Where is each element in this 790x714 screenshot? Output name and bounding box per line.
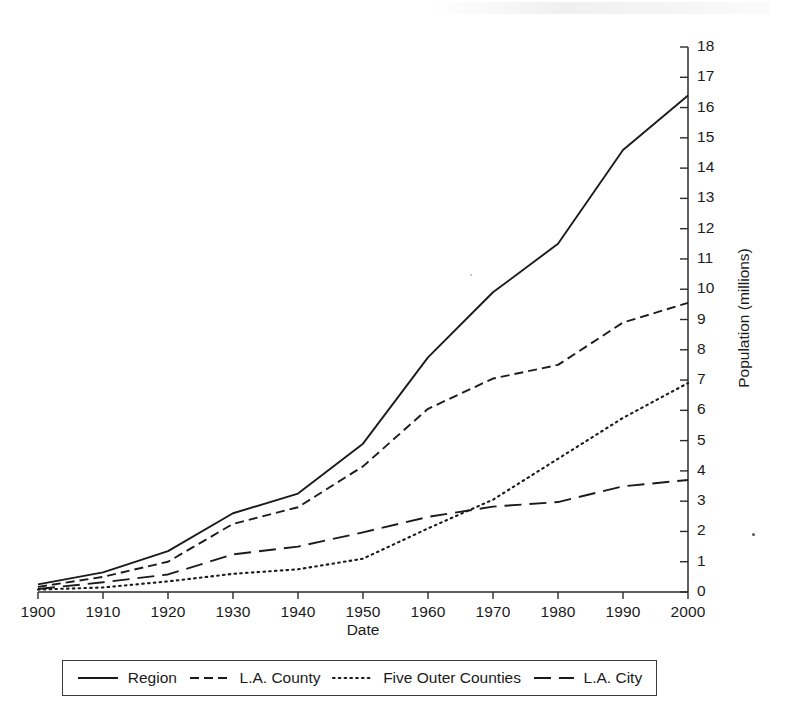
x-tick-label: 1990 xyxy=(606,603,641,621)
y-tick-label: 16 xyxy=(697,98,714,116)
legend-label: Region xyxy=(128,669,177,687)
y-axis-ticks xyxy=(680,47,688,592)
y-tick-label: 4 xyxy=(697,461,706,479)
x-tick-label: 1940 xyxy=(281,603,316,621)
legend-entry-region[interactable]: Region xyxy=(77,669,177,687)
legend-label: Five Outer Counties xyxy=(383,669,521,687)
population-growth-line-chart: 0123456789101112131415161718 19001910192… xyxy=(0,0,790,714)
x-axis-title: Date xyxy=(347,621,380,639)
y-tick-label: 1 xyxy=(697,552,706,570)
legend-entry-five-outer-counties[interactable]: Five Outer Counties xyxy=(332,669,521,687)
y-tick-label: 12 xyxy=(697,219,714,237)
legend-label: L.A. City xyxy=(584,669,643,687)
series-line-five-outer-counties xyxy=(38,383,688,590)
series-line-region xyxy=(38,95,688,584)
legend-swatch-dotted xyxy=(332,672,374,684)
x-tick-label: 1960 xyxy=(411,603,446,621)
y-tick-label: 5 xyxy=(697,431,706,449)
x-tick-label: 1930 xyxy=(216,603,251,621)
x-tick-label: 1970 xyxy=(476,603,511,621)
y-tick-label: 13 xyxy=(697,188,714,206)
y-tick-label: 7 xyxy=(697,370,706,388)
y-tick-label: 8 xyxy=(697,340,706,358)
y-tick-label: 14 xyxy=(697,158,714,176)
y-tick-label: 11 xyxy=(697,249,713,267)
y-tick-label: 3 xyxy=(697,491,706,509)
x-tick-label: 1950 xyxy=(346,603,381,621)
y-tick-label: 2 xyxy=(697,521,706,539)
x-tick-label: 2000 xyxy=(671,603,706,621)
legend-swatch-long-dash xyxy=(533,672,575,684)
y-tick-label: 15 xyxy=(697,128,714,146)
y-axis-title: Population (millions) xyxy=(735,248,753,388)
legend-entry-l-a-county[interactable]: L.A. County xyxy=(189,669,321,687)
x-tick-label: 1920 xyxy=(151,603,186,621)
y-tick-label: 9 xyxy=(697,310,706,328)
legend-entry-l-a-city[interactable]: L.A. City xyxy=(533,669,643,687)
x-tick-label: 1910 xyxy=(86,603,121,621)
legend-label: L.A. County xyxy=(240,669,321,687)
y-tick-label: 18 xyxy=(697,37,714,55)
x-tick-label: 1900 xyxy=(21,603,56,621)
y-tick-label: 6 xyxy=(697,400,706,418)
y-tick-label: 10 xyxy=(697,279,714,297)
series-line-l-a-county xyxy=(38,303,688,587)
legend-swatch-solid xyxy=(77,672,119,684)
axis-lines xyxy=(38,47,688,592)
x-axis-ticks xyxy=(38,592,688,599)
y-tick-label: 17 xyxy=(697,67,714,85)
x-tick-label: 1980 xyxy=(541,603,576,621)
legend-swatch-dashed xyxy=(189,672,231,684)
series-line-l-a-city xyxy=(38,480,688,589)
chart-legend: RegionL.A. CountyFive Outer CountiesL.A.… xyxy=(62,660,657,696)
y-tick-label: 0 xyxy=(697,582,706,600)
